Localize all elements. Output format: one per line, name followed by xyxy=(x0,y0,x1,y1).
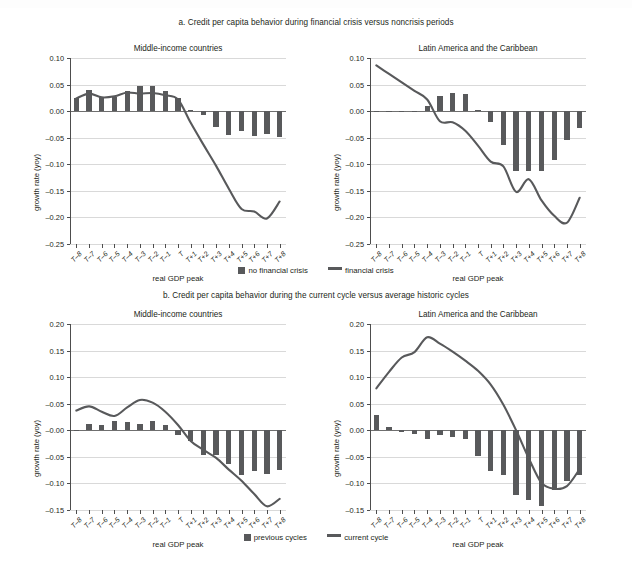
x-tick-mark xyxy=(516,510,517,514)
y-tick-label: –0.05 xyxy=(30,133,64,142)
x-tick-mark xyxy=(478,244,479,248)
panel-b-left: Middle-income countries0.200.150.10–0.05… xyxy=(30,310,298,538)
panel-title: Middle-income countries xyxy=(70,310,286,319)
x-tick-mark xyxy=(389,244,390,248)
y-tick-mark xyxy=(67,217,70,218)
y-tick-mark xyxy=(367,138,370,139)
x-tick-mark xyxy=(242,244,243,248)
y-tick-mark xyxy=(367,430,370,431)
x-tick-mark xyxy=(76,510,77,514)
y-tick-mark xyxy=(67,430,70,431)
x-tick-mark xyxy=(140,510,141,514)
x-tick-mark xyxy=(216,244,217,248)
x-tick-mark xyxy=(178,244,179,248)
x-tick-mark xyxy=(542,244,543,248)
x-tick-mark xyxy=(542,510,543,514)
x-tick-mark xyxy=(529,510,530,514)
x-tick-mark xyxy=(280,510,281,514)
y-tick-label: 0.05 xyxy=(30,80,64,89)
x-tick-mark xyxy=(76,244,77,248)
y-tick-mark xyxy=(67,244,70,245)
y-tick-label: 0.10 xyxy=(330,373,364,382)
x-tick-mark xyxy=(153,510,154,514)
y-tick-label: –0.10 xyxy=(330,479,364,488)
x-tick-mark xyxy=(254,244,255,248)
y-tick-label: 0.05 xyxy=(330,399,364,408)
y-tick-label: 0.20 xyxy=(330,320,364,329)
x-tick-mark xyxy=(229,244,230,248)
x-tick-mark xyxy=(114,510,115,514)
line-series xyxy=(70,58,286,244)
x-tick-mark xyxy=(402,244,403,248)
panel-title: Latin America and the Caribbean xyxy=(370,310,586,319)
y-tick-mark xyxy=(67,85,70,86)
x-tick-mark xyxy=(191,244,192,248)
x-axis-title: real GDP peak xyxy=(370,274,586,283)
x-tick-mark xyxy=(254,510,255,514)
x-tick-mark xyxy=(554,244,555,248)
x-tick-mark xyxy=(216,510,217,514)
y-tick-label: 0.10 xyxy=(30,54,64,63)
x-tick-mark xyxy=(165,510,166,514)
y-tick-label: –0.15 xyxy=(30,506,64,515)
line-series xyxy=(370,58,586,244)
x-axis-title: real GDP peak xyxy=(70,540,286,549)
x-tick-mark xyxy=(580,244,581,248)
y-tick-mark xyxy=(67,351,70,352)
y-tick-mark xyxy=(367,191,370,192)
x-tick-mark xyxy=(376,510,377,514)
x-tick-mark xyxy=(191,510,192,514)
y-tick-mark xyxy=(367,217,370,218)
x-tick-mark xyxy=(516,244,517,248)
y-tick-label: 0.10 xyxy=(30,373,64,382)
y-tick-mark xyxy=(67,404,70,405)
x-tick-mark xyxy=(127,244,128,248)
section-b-title: b. Credit per capita behavior during the… xyxy=(0,291,632,300)
y-tick-mark xyxy=(367,377,370,378)
x-tick-mark xyxy=(465,510,466,514)
x-tick-mark xyxy=(203,510,204,514)
x-tick-mark xyxy=(554,510,555,514)
x-tick-mark xyxy=(453,244,454,248)
x-tick-mark xyxy=(414,244,415,248)
y-tick-label: 0.05 xyxy=(330,80,364,89)
x-tick-mark xyxy=(153,244,154,248)
y-tick-label: –0.10 xyxy=(30,479,64,488)
y-tick-mark xyxy=(367,404,370,405)
y-tick-label: –0.20 xyxy=(30,213,64,222)
plot-area xyxy=(370,324,586,510)
x-tick-mark xyxy=(89,510,90,514)
y-tick-mark xyxy=(367,58,370,59)
x-tick-mark xyxy=(503,244,504,248)
x-tick-mark xyxy=(376,244,377,248)
x-tick-mark xyxy=(567,244,568,248)
y-tick-mark xyxy=(67,138,70,139)
y-axis-title: growth rate (yoy) xyxy=(332,154,341,211)
y-axis-title: growth rate (yoy) xyxy=(32,154,41,211)
x-tick-mark xyxy=(440,244,441,248)
y-tick-mark xyxy=(67,483,70,484)
y-tick-mark xyxy=(367,457,370,458)
x-tick-mark xyxy=(229,510,230,514)
y-axis-title: growth rate (yoy) xyxy=(332,420,341,477)
y-tick-label: –0.05 xyxy=(30,399,64,408)
x-tick-mark xyxy=(267,510,268,514)
y-tick-label: 0.15 xyxy=(330,346,364,355)
x-tick-mark xyxy=(427,510,428,514)
x-tick-mark xyxy=(89,244,90,248)
x-tick-mark xyxy=(529,244,530,248)
y-tick-label: 0.20 xyxy=(30,320,64,329)
y-tick-mark xyxy=(67,111,70,112)
y-tick-label: 0.15 xyxy=(30,346,64,355)
figure-top-strip xyxy=(0,0,632,8)
x-tick-mark xyxy=(491,510,492,514)
plot-area xyxy=(370,58,586,244)
y-tick-mark xyxy=(67,510,70,511)
y-tick-mark xyxy=(367,351,370,352)
y-tick-mark xyxy=(67,377,70,378)
y-axis-title: growth rate (yoy) xyxy=(32,420,41,477)
x-tick-mark xyxy=(102,244,103,248)
y-tick-mark xyxy=(67,58,70,59)
x-tick-mark xyxy=(127,510,128,514)
y-tick-label: 0.00 xyxy=(30,107,64,116)
